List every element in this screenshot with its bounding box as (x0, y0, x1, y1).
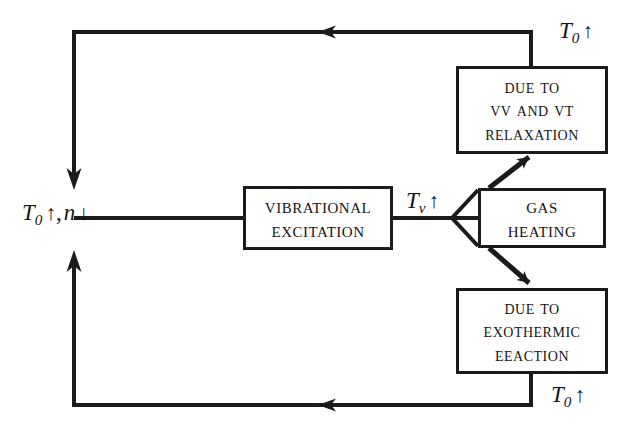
up-arrow-icon: ↑ (42, 201, 56, 225)
edge-gasheating-to-reaction (489, 248, 529, 283)
node-exothermic-reaction-line-3: Eeaction (495, 343, 569, 366)
edge-gasheating-to-relaxation (489, 157, 529, 188)
label-t0-up-top: T0↑ (559, 18, 593, 47)
node-vibrational-excitation-line-1: Vibrational (265, 194, 371, 218)
label-t0-up-n-down: T0↑,n↓ (22, 200, 89, 229)
up-arrow-icon: ↑ (426, 189, 440, 213)
label-comma: , (56, 200, 64, 225)
label-tv-subscript: v (419, 199, 426, 216)
label-n-symbol: n (64, 200, 76, 225)
down-arrow-icon: ↓ (75, 201, 89, 225)
label-t0-up-bottom: T0↑ (551, 382, 585, 411)
node-vv-vt-relaxation-line-3: Relaxation (485, 122, 579, 145)
node-vv-vt-relaxation-line-2: VV and VT (490, 98, 574, 121)
diagram-canvas: Vibrational Excitation Gas Heating Due t… (0, 0, 637, 436)
up-arrow-icon: ↑ (571, 383, 585, 407)
node-exothermic-reaction-line-2: Exothermic (484, 319, 581, 342)
node-vv-vt-relaxation[interactable]: Due to VV and VT Relaxation (456, 66, 608, 154)
node-vibrational-excitation[interactable]: Vibrational Excitation (243, 186, 393, 250)
node-vv-vt-relaxation-line-1: Due to (504, 75, 559, 98)
label-t0-symbol: T (22, 200, 35, 225)
node-exothermic-reaction-line-1: Due to (504, 296, 559, 319)
label-tv-up: Tv↑ (406, 188, 439, 217)
node-exothermic-reaction[interactable]: Due to Exothermic Eeaction (456, 288, 608, 374)
node-gas-heating-line-2: Heating (508, 218, 577, 242)
node-gas-heating-line-1: Gas (526, 194, 558, 218)
up-arrow-icon: ↑ (579, 19, 593, 43)
label-tv-symbol: T (406, 188, 419, 213)
node-vibrational-excitation-line-2: Excitation (272, 218, 365, 242)
label-t0-symbol: T (551, 382, 564, 407)
node-gas-heating[interactable]: Gas Heating (478, 188, 606, 248)
label-t0-symbol: T (559, 18, 572, 43)
